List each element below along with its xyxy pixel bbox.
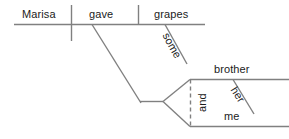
word-direct-object: grapes [154,9,188,20]
word-indirect-object-brother: brother [214,64,250,75]
word-indirect-object-me: me [224,111,239,122]
conjunction-fork-upper [163,80,190,102]
word-subject: Marisa [22,9,56,20]
word-conjunction-and: and [197,93,208,112]
conjunction-fork-lower [163,102,190,127]
indirect-object-connector [92,25,141,104]
sentence-diagram: Marisa gave grapes some brother her me a… [0,0,289,139]
word-verb: gave [89,9,113,20]
